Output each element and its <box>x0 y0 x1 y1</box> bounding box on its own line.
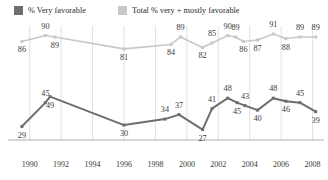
data-point <box>44 34 47 37</box>
x-tick-2008: 2008 <box>305 160 321 169</box>
data-point <box>299 101 302 104</box>
data-point <box>201 46 204 49</box>
data-point <box>234 35 237 38</box>
data-label: 84 <box>167 49 175 57</box>
data-point <box>123 47 126 50</box>
data-label: 49 <box>46 102 54 110</box>
x-tick-2000: 2000 <box>179 160 195 169</box>
x-tick-1998: 1998 <box>147 160 163 169</box>
series-line-total-favorable <box>22 34 316 49</box>
x-tick-2006: 2006 <box>273 160 289 169</box>
data-point <box>201 128 204 131</box>
data-label: 90 <box>41 22 49 30</box>
data-label: 82 <box>199 52 207 60</box>
x-tick-1992: 1992 <box>53 160 69 169</box>
x-tick-2004: 2004 <box>242 160 258 169</box>
data-point <box>272 97 275 100</box>
data-label: 89 <box>177 24 185 32</box>
data-label: 85 <box>208 30 216 38</box>
legend-item-very-favorable[interactable]: % Very favorable <box>14 3 86 17</box>
data-label: 86 <box>239 46 247 54</box>
legend-swatch-total-favorable <box>118 6 127 15</box>
x-tick-1996: 1996 <box>116 160 132 169</box>
data-label: 89 <box>232 24 240 32</box>
data-label: 48 <box>269 85 277 93</box>
data-point <box>226 34 229 37</box>
data-point <box>226 97 229 100</box>
data-label: 86 <box>18 46 26 54</box>
data-label: 89 <box>296 24 304 32</box>
x-tick-2002: 2002 <box>210 160 226 169</box>
data-label: 87 <box>254 45 262 53</box>
data-point <box>256 38 259 41</box>
data-label: 81 <box>120 54 128 62</box>
data-label: 91 <box>269 21 277 29</box>
data-label: 30 <box>120 130 128 138</box>
legend-item-total-favorable[interactable]: Total % very + mostly favorable <box>118 3 240 17</box>
legend-label-very-favorable: % Very favorable <box>28 6 86 15</box>
data-label: 45 <box>41 90 49 98</box>
x-tick-1994: 1994 <box>85 160 101 169</box>
data-point <box>170 43 173 46</box>
data-point <box>242 40 245 43</box>
data-point <box>272 32 275 35</box>
data-label: 41 <box>208 95 216 103</box>
data-label: 45 <box>233 108 241 116</box>
data-point <box>179 35 182 38</box>
data-label: 88 <box>282 43 290 51</box>
data-point <box>163 118 166 121</box>
data-point <box>284 37 287 40</box>
data-point <box>53 35 56 38</box>
data-point <box>256 109 259 112</box>
data-point <box>244 104 247 107</box>
data-label: 48 <box>224 85 232 93</box>
data-point <box>299 35 302 38</box>
data-label: 39 <box>312 116 320 124</box>
data-label: 89 <box>51 42 59 50</box>
data-label: 43 <box>241 93 249 101</box>
data-point <box>314 35 317 38</box>
data-label: 40 <box>254 115 262 123</box>
data-label: 46 <box>282 106 290 114</box>
data-point <box>20 125 23 128</box>
data-point <box>236 101 239 104</box>
favorability-line-chart: % Very favorable Total % very + mostly f… <box>0 0 328 180</box>
data-label: 29 <box>18 131 26 139</box>
data-point <box>211 107 214 110</box>
data-point <box>314 110 317 113</box>
chart-legend: % Very favorable Total % very + mostly f… <box>0 3 328 17</box>
x-tick-1990: 1990 <box>22 160 38 169</box>
data-label: 37 <box>175 101 183 109</box>
data-label: 34 <box>161 106 169 114</box>
data-label: 45 <box>296 90 304 98</box>
data-point <box>211 41 214 44</box>
plot-area: 8690898184898285908986879188898929454930… <box>0 22 328 158</box>
data-point <box>178 113 181 116</box>
data-label: 27 <box>199 134 207 142</box>
data-label: 89 <box>312 24 320 32</box>
data-point <box>284 100 287 103</box>
data-point <box>123 124 126 127</box>
data-point <box>20 40 23 43</box>
legend-label-total-favorable: Total % very + mostly favorable <box>132 6 240 15</box>
x-axis-labels: 1990199219941996199820002002200420062008 <box>0 160 328 176</box>
legend-swatch-very-favorable <box>14 6 23 15</box>
